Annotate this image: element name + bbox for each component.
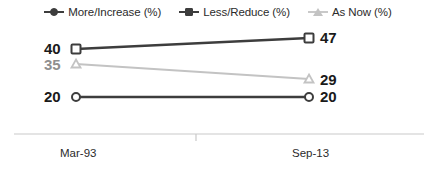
series-more-increase [72,34,314,54]
legend-label-as-now: As Now (%) [332,6,392,18]
legend-item-as-now[interactable]: As Now (%) [308,6,392,18]
x-axis [14,134,424,141]
chart-legend: More/Increase (%) Less/Reduce (%) As Now… [0,0,436,24]
legend-item-more-increase[interactable]: More/Increase (%) [44,6,161,18]
data-point-more-increase-end [305,34,314,43]
value-label-more-increase-start: 40 [44,41,61,56]
data-point-as-now-start [72,60,81,68]
chart-container: More/Increase (%) Less/Reduce (%) As Now… [0,0,436,174]
legend-marker-as-now-icon [308,6,328,18]
plot-area: 40 35 20 47 29 20 Mar-93 Sep-13 [0,24,436,174]
value-label-more-increase-end: 47 [320,30,337,45]
series-less-reduce [72,93,313,101]
legend-item-less-reduce[interactable]: Less/Reduce (%) [179,6,290,18]
x-axis-label-last: Sep-13 [292,147,329,159]
data-point-more-increase-start [72,45,81,54]
x-axis-label-first: Mar-93 [60,147,96,159]
legend-label-less-reduce: Less/Reduce (%) [203,6,290,18]
value-label-less-reduce-start: 20 [44,89,61,104]
data-point-less-reduce-start [72,93,80,101]
legend-marker-more-increase-icon [44,6,64,18]
series-as-now [72,60,314,83]
data-point-less-reduce-end [305,93,313,101]
data-point-as-now-end [305,75,314,83]
value-label-less-reduce-end: 20 [320,89,337,104]
value-label-as-now-end: 29 [320,72,337,87]
legend-marker-less-reduce-icon [179,6,199,18]
series-line-as-now [76,64,309,79]
legend-label-more-increase: More/Increase (%) [68,6,161,18]
series-line-more-increase [76,38,309,49]
value-label-as-now-start: 35 [44,57,61,72]
